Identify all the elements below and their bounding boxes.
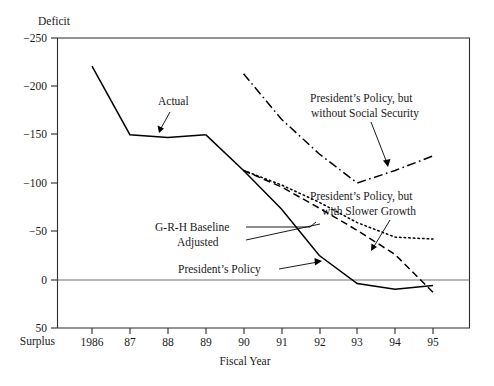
y-axis-bottom-label-surplus: Surplus — [20, 335, 56, 348]
annotation-sg-line2: with Slower Growth — [322, 205, 416, 217]
annotation-actual-arrowhead — [158, 126, 165, 134]
annotation-sg-arrowhead — [371, 244, 377, 252]
y-tick-labels: −250 −200 −150 −100 −50 0 50 — [23, 32, 47, 334]
x-tick-marks — [92, 328, 433, 334]
x-tick-label-91: 91 — [276, 336, 288, 348]
annotation-wss-leader — [371, 122, 387, 163]
chart-svg: −250 −200 −150 −100 −50 0 50 Deficit Sur… — [0, 0, 494, 386]
annotation-pp-arrowhead — [315, 258, 323, 266]
x-tick-label-94: 94 — [389, 336, 401, 348]
annotation-grh-baseline: G-R-H Baseline Adjusted — [155, 221, 316, 249]
y-tick-label-plus50: 50 — [36, 322, 48, 334]
x-tick-label-87: 87 — [124, 336, 136, 348]
y-tick-label-minus250: −250 — [23, 32, 47, 44]
annotation-sg-line1: President’s Policy, but — [310, 190, 413, 203]
series-without-social-security — [244, 74, 433, 183]
deficit-projection-chart: −250 −200 −150 −100 −50 0 50 Deficit Sur… — [0, 0, 494, 386]
annotation-presidents-policy: President’s Policy — [178, 258, 322, 276]
axis-frame — [58, 38, 471, 328]
annotation-actual-label: Actual — [158, 95, 189, 107]
annotation-actual: Actual — [158, 95, 189, 133]
y-tick-label-minus100: −100 — [23, 177, 47, 189]
x-tick-label-89: 89 — [200, 336, 212, 348]
x-tick-label-95: 95 — [427, 336, 439, 348]
annotation-slower-growth: President’s Policy, but with Slower Grow… — [310, 190, 416, 251]
annotation-grh-line2: Adjusted — [177, 236, 219, 249]
annotation-actual-leader — [160, 112, 170, 130]
annotation-wss-line2: without Social Security — [311, 107, 419, 120]
grh-leader-2 — [246, 224, 320, 240]
annotation-wss-arrowhead — [383, 159, 391, 167]
x-tick-label-92: 92 — [314, 336, 326, 348]
y-axis-top-label-deficit: Deficit — [38, 15, 71, 27]
x-axis-title: Fiscal Year — [219, 355, 270, 367]
x-tick-label-1986: 1986 — [81, 336, 104, 348]
x-tick-labels: 1986 87 88 89 90 91 92 93 94 95 — [81, 336, 440, 348]
y-tick-label-minus150: −150 — [23, 128, 47, 140]
annotation-wss-line1: President’s Policy, but — [310, 92, 413, 105]
y-tick-marks — [51, 38, 58, 328]
annotation-grh-second-leader — [246, 224, 320, 240]
y-tick-label-zero: 0 — [41, 274, 47, 286]
x-tick-label-93: 93 — [351, 336, 363, 348]
annotation-pp-label: President’s Policy — [178, 263, 261, 276]
x-tick-label-90: 90 — [238, 336, 250, 348]
y-tick-label-minus200: −200 — [23, 80, 47, 92]
annotation-pp-leader — [279, 262, 318, 269]
series-grh-baseline-adjusted — [244, 170, 433, 292]
y-tick-label-minus50: −50 — [29, 225, 47, 237]
annotation-grh-line1: G-R-H Baseline — [155, 221, 229, 233]
annotation-without-social-security: President’s Policy, but without Social S… — [310, 92, 419, 167]
x-tick-label-88: 88 — [162, 336, 174, 348]
